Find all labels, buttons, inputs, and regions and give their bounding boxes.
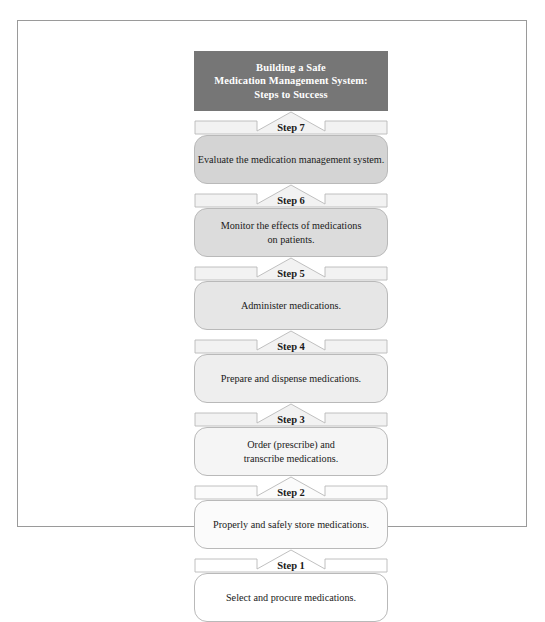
- step-box-2[interactable]: Properly and safely store medications.: [194, 500, 388, 549]
- step-text-6-line-2: on patients.: [268, 233, 315, 247]
- step-text-3-line-1: Order (prescribe) and: [247, 438, 335, 452]
- step-box-1[interactable]: Select and procure medications.: [194, 573, 388, 622]
- title-line-3: Steps to Success: [254, 88, 327, 102]
- up-arrow-icon: [194, 111, 388, 135]
- title-line-1: Building a Safe: [256, 61, 326, 75]
- step-box-4[interactable]: Prepare and dispense medications.: [194, 354, 388, 403]
- connector-step-6: Step 6: [194, 184, 388, 208]
- process-flow: Building a Safe Medication Management Sy…: [194, 51, 388, 622]
- title-line-2: Medication Management System:: [214, 74, 367, 88]
- step-text-2-line-1: Properly and safely store medications.: [213, 518, 369, 532]
- connector-step-4: Step 4: [194, 330, 388, 354]
- connector-step-5: Step 5: [194, 257, 388, 281]
- up-arrow-icon: [194, 403, 388, 427]
- step-text-7-line-1: Evaluate the medication management syste…: [198, 153, 384, 167]
- step-text-5-line-1: Administer medications.: [241, 299, 341, 313]
- connector-step-1: Step 1: [194, 549, 388, 573]
- step-text-4-line-1: Prepare and dispense medications.: [221, 372, 361, 386]
- step-text-3-line-2: transcribe medications.: [244, 452, 338, 466]
- diagram-frame: Building a Safe Medication Management Sy…: [17, 20, 527, 527]
- step-box-5[interactable]: Administer medications.: [194, 281, 388, 330]
- up-arrow-icon: [194, 184, 388, 208]
- step-box-6[interactable]: Monitor the effects of medications on pa…: [194, 208, 388, 257]
- step-box-3[interactable]: Order (prescribe) and transcribe medicat…: [194, 427, 388, 476]
- connector-step-7: Step 7: [194, 111, 388, 135]
- step-box-7[interactable]: Evaluate the medication management syste…: [194, 135, 388, 184]
- step-text-1-line-1: Select and procure medications.: [226, 591, 356, 605]
- step-text-6-line-1: Monitor the effects of medications: [221, 219, 362, 233]
- up-arrow-icon: [194, 476, 388, 500]
- up-arrow-icon: [194, 549, 388, 573]
- connector-step-3: Step 3: [194, 403, 388, 427]
- up-arrow-icon: [194, 330, 388, 354]
- connector-step-2: Step 2: [194, 476, 388, 500]
- diagram-title-banner: Building a Safe Medication Management Sy…: [194, 51, 388, 111]
- up-arrow-icon: [194, 257, 388, 281]
